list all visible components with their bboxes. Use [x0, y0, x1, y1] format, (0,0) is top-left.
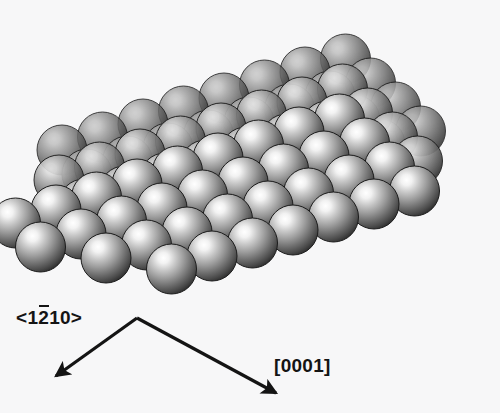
direction-axes: [56, 318, 276, 393]
direction-label-a-1210: <1210>: [16, 308, 82, 327]
atom-sphere: [81, 233, 131, 283]
label-a-prefix: <1: [16, 307, 38, 328]
label-a-overbar-digit: 2: [38, 308, 49, 327]
atom-sphere: [147, 244, 197, 294]
direction-arrow-c-0001: [137, 318, 276, 393]
sphere-cluster: [0, 34, 446, 294]
label-a-suffix: 10>: [49, 307, 82, 328]
atom-sphere: [16, 222, 66, 272]
crystal-model-figure: <1210> [0001]: [0, 0, 500, 413]
direction-label-c-0001: [0001]: [274, 356, 331, 375]
crystal-model-canvas: [0, 0, 500, 413]
